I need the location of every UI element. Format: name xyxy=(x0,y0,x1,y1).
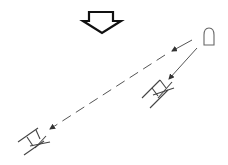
diagram-svg xyxy=(0,0,228,165)
near-target-glyph xyxy=(142,80,174,108)
dashed-arrow-to-far-target xyxy=(50,40,192,129)
source-object xyxy=(204,28,214,45)
diagram-canvas xyxy=(0,0,228,165)
far-target-glyph xyxy=(18,128,50,155)
down-arrow-icon xyxy=(83,12,121,33)
solid-arrow-to-near-target xyxy=(169,48,197,79)
